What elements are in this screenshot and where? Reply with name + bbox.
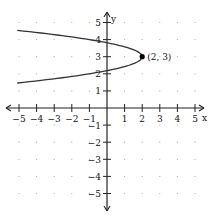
grid-dot bbox=[177, 193, 178, 194]
grid-dot bbox=[194, 39, 195, 40]
grid-dot bbox=[71, 193, 72, 194]
grid-dot bbox=[54, 56, 55, 57]
grid-dot bbox=[194, 159, 195, 160]
grid-dot bbox=[142, 125, 143, 126]
grid-dot bbox=[71, 142, 72, 143]
y-tick-label: 1 bbox=[95, 86, 101, 96]
x-tick-label: −4 bbox=[30, 114, 44, 124]
y-axis-label: y bbox=[110, 14, 117, 24]
x-tick-label: −5 bbox=[12, 114, 26, 124]
grid-dot bbox=[89, 56, 90, 57]
y-tick-label: −4 bbox=[88, 172, 102, 182]
y-tick-label: −3 bbox=[88, 155, 102, 165]
grid-dot bbox=[194, 22, 195, 23]
grid-dot bbox=[159, 125, 160, 126]
grid-dot bbox=[194, 176, 195, 177]
grid-dot bbox=[177, 90, 178, 91]
x-tick-label: 1 bbox=[122, 114, 128, 124]
grid-dot bbox=[54, 142, 55, 143]
grid-dot bbox=[54, 73, 55, 74]
grid-dot bbox=[177, 22, 178, 23]
grid-dot bbox=[142, 159, 143, 160]
grid-dot bbox=[177, 125, 178, 126]
x-axis-label: x bbox=[202, 113, 207, 123]
grid-dot bbox=[18, 73, 19, 74]
grid-dot bbox=[71, 56, 72, 57]
grid-dot bbox=[194, 56, 195, 57]
grid-dot bbox=[89, 90, 90, 91]
grid-dot bbox=[159, 90, 160, 91]
y-tick-label: −5 bbox=[88, 189, 102, 199]
grid-dot bbox=[71, 176, 72, 177]
grid-dot bbox=[18, 176, 19, 177]
grid-dot bbox=[36, 193, 37, 194]
grid-dot bbox=[36, 142, 37, 143]
grid-dot bbox=[177, 176, 178, 177]
grid-dot bbox=[177, 142, 178, 143]
grid-dot bbox=[124, 142, 125, 143]
grid-dot bbox=[54, 125, 55, 126]
grid-dot bbox=[54, 159, 55, 160]
grid-dot bbox=[54, 39, 55, 40]
x-tick-label: 5 bbox=[192, 114, 198, 124]
grid-dot bbox=[159, 142, 160, 143]
parabola-curve bbox=[17, 30, 142, 83]
grid-dot bbox=[177, 39, 178, 40]
grid-dot bbox=[71, 22, 72, 23]
x-tick-label: −2 bbox=[65, 114, 78, 124]
y-tick-label: 2 bbox=[95, 69, 101, 79]
grid-dot bbox=[124, 193, 125, 194]
grid-dot bbox=[36, 56, 37, 57]
x-tick-label: 3 bbox=[157, 114, 163, 124]
grid-dot bbox=[18, 39, 19, 40]
grid-dot bbox=[142, 39, 143, 40]
grid-dot bbox=[18, 142, 19, 143]
x-tick-label: 4 bbox=[175, 114, 181, 124]
coordinate-graph: x y −5−4−3−2−112345−5−4−3−2−112345 (2, 3… bbox=[0, 0, 212, 215]
y-tick-label: −2 bbox=[88, 138, 101, 148]
grid-dot bbox=[194, 193, 195, 194]
grid-dot bbox=[194, 73, 195, 74]
y-tick-label: 5 bbox=[95, 18, 101, 28]
grid-dot bbox=[36, 159, 37, 160]
grid-dot bbox=[142, 193, 143, 194]
grid-dot bbox=[124, 39, 125, 40]
grid-dot bbox=[18, 125, 19, 126]
grid-dot bbox=[54, 176, 55, 177]
grid-dot bbox=[159, 73, 160, 74]
grid-dot bbox=[124, 125, 125, 126]
grid-dot bbox=[142, 142, 143, 143]
grid-dot bbox=[71, 39, 72, 40]
grid-dot bbox=[159, 159, 160, 160]
grid-dot bbox=[54, 193, 55, 194]
grid-dot bbox=[194, 125, 195, 126]
grid-dot bbox=[159, 176, 160, 177]
grid-dot bbox=[71, 90, 72, 91]
grid-dot bbox=[124, 90, 125, 91]
grid-dot bbox=[71, 159, 72, 160]
grid-dot bbox=[36, 73, 37, 74]
x-tick-label: 2 bbox=[139, 114, 145, 124]
grid-dot bbox=[194, 142, 195, 143]
grid-dot bbox=[18, 193, 19, 194]
grid-dot bbox=[54, 90, 55, 91]
grid-dot bbox=[18, 56, 19, 57]
grid-dot bbox=[142, 90, 143, 91]
grid-dot bbox=[36, 22, 37, 23]
grid-dot bbox=[177, 73, 178, 74]
grid-dot bbox=[71, 73, 72, 74]
grid-dot bbox=[18, 22, 19, 23]
vertex-label: (2, 3) bbox=[147, 52, 171, 62]
grid-dot bbox=[142, 176, 143, 177]
grid-dot bbox=[124, 22, 125, 23]
grid-dot bbox=[18, 90, 19, 91]
grid-dot bbox=[177, 56, 178, 57]
grid-dot bbox=[124, 159, 125, 160]
grid-dot bbox=[142, 22, 143, 23]
grid-dot bbox=[159, 193, 160, 194]
grid-dot bbox=[54, 22, 55, 23]
grid-dot bbox=[18, 159, 19, 160]
grid-dot bbox=[159, 39, 160, 40]
y-tick-label: −1 bbox=[88, 121, 101, 131]
grid-dot bbox=[36, 176, 37, 177]
